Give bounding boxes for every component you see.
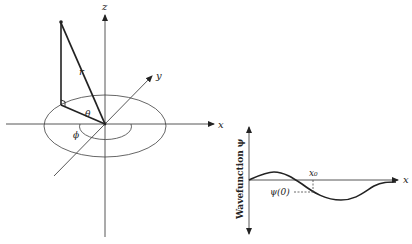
- wave-x-axis-label: x: [403, 174, 409, 185]
- azimuth-arc: [80, 124, 132, 140]
- spherical-coordinates-panel: z y x r θ ϕ: [6, 1, 224, 237]
- phi-label: ϕ: [73, 130, 79, 140]
- theta-label: θ: [85, 109, 91, 119]
- y-axis-label: y: [155, 70, 162, 81]
- z-axis-label: z: [101, 1, 108, 12]
- origin-dot: [104, 123, 107, 126]
- x-axis-label: x: [218, 119, 224, 130]
- x0-label: x₀: [309, 168, 318, 178]
- y-axis: [54, 76, 152, 176]
- point-p: [59, 20, 63, 24]
- wavefunction-panel: x₀ ψ(0) x Wavefunction ψ: [235, 127, 409, 234]
- figure-canvas: z y x r θ ϕ x₀ ψ(0) x Wavefunction ψ: [0, 0, 412, 244]
- wavefunction-axis-label: Wavefunction ψ: [235, 138, 245, 220]
- psi0-label: ψ(0): [270, 187, 290, 197]
